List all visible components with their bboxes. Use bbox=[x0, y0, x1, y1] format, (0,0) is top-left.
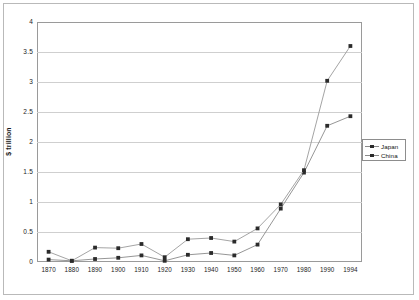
legend-label-japan: Japan bbox=[379, 143, 398, 150]
legend-item-china[interactable]: China bbox=[365, 151, 403, 160]
data-point-china-1980 bbox=[302, 168, 306, 172]
legend-item-japan[interactable]: Japan bbox=[365, 142, 403, 151]
legend: Japan China bbox=[362, 139, 406, 161]
data-point-japan-1890 bbox=[93, 257, 97, 261]
data-point-japan-1990 bbox=[325, 124, 329, 128]
data-point-japan-1994 bbox=[348, 114, 352, 118]
data-point-japan-1930 bbox=[186, 253, 190, 257]
data-point-china-1910 bbox=[140, 242, 144, 246]
data-point-china-1900 bbox=[116, 246, 120, 250]
data-point-japan-1970 bbox=[279, 207, 283, 211]
data-point-china-1880 bbox=[70, 259, 74, 263]
data-point-japan-1940 bbox=[209, 251, 213, 255]
legend-label-china: China bbox=[379, 152, 398, 159]
data-point-china-1950 bbox=[232, 240, 236, 244]
series-layer bbox=[0, 0, 419, 300]
data-point-china-1930 bbox=[186, 237, 190, 241]
data-point-china-1994 bbox=[348, 44, 352, 48]
legend-marker-japan-icon bbox=[365, 143, 379, 150]
data-point-china-1920 bbox=[163, 255, 167, 259]
chart-container: 00.511.522.533.54 1870188018901900191019… bbox=[0, 0, 419, 300]
data-point-japan-1950 bbox=[232, 254, 236, 258]
data-point-china-1890 bbox=[93, 246, 97, 250]
data-point-japan-1870 bbox=[47, 258, 51, 262]
data-point-china-1960 bbox=[256, 227, 260, 231]
legend-marker-china-icon bbox=[365, 152, 379, 159]
data-point-japan-1920 bbox=[163, 259, 167, 263]
data-point-china-1940 bbox=[209, 236, 213, 240]
data-point-japan-1960 bbox=[256, 243, 260, 247]
data-point-china-1870 bbox=[47, 250, 51, 254]
data-point-japan-1910 bbox=[140, 254, 144, 258]
series-line-china bbox=[49, 46, 351, 261]
series-line-japan bbox=[49, 116, 351, 261]
data-point-japan-1900 bbox=[116, 256, 120, 260]
data-point-china-1970 bbox=[279, 203, 283, 207]
data-point-china-1990 bbox=[325, 79, 329, 83]
